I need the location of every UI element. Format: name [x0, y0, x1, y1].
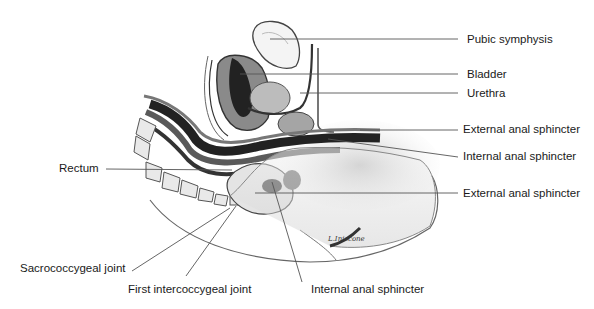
- perineum-skin: [230, 148, 435, 248]
- leader-rectum: [106, 169, 232, 170]
- label-rectum: Rectum: [59, 162, 99, 175]
- label-internal-anal-sphincter-lower: Internal anal sphincter: [311, 283, 424, 296]
- uterus-shape: [250, 82, 290, 114]
- label-pubic-symphysis: Pubic symphysis: [467, 33, 553, 46]
- label-external-anal-sphincter-upper: External anal sphincter: [463, 123, 580, 136]
- pubic-symphysis-shape: [253, 21, 300, 68]
- leader-first-intercoccygeal-joint: [186, 206, 236, 276]
- artist-signature: L.Iniscone: [327, 235, 365, 243]
- label-urethra: Urethra: [467, 87, 505, 100]
- anatomy-figure: L.Iniscone Pubic symphysis Bladder Ureth…: [0, 0, 594, 309]
- label-sacrococcygeal-joint: Sacrococcygeal joint: [20, 262, 125, 275]
- label-internal-anal-sphincter-upper: Internal anal sphincter: [463, 150, 576, 163]
- label-first-intercoccygeal-joint: First intercoccygeal joint: [128, 283, 251, 296]
- leader-sacrococcygeal-joint: [132, 208, 230, 271]
- label-bladder: Bladder: [467, 68, 507, 81]
- vagina-wall: [318, 48, 334, 132]
- label-external-anal-sphincter-lower: External anal sphincter: [463, 187, 580, 200]
